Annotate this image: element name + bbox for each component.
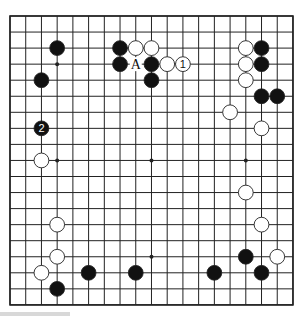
white-stone (50, 217, 65, 232)
black-stone (50, 41, 65, 56)
black-stone (34, 73, 49, 88)
black-stone (254, 57, 269, 72)
star-point (55, 158, 59, 162)
white-stone (50, 249, 65, 264)
star-point (149, 158, 153, 162)
star-point (244, 158, 248, 162)
star-point (55, 62, 59, 66)
scan-artifact (0, 312, 70, 316)
move-number: 1 (180, 58, 186, 70)
white-stone (223, 105, 238, 120)
black-stone (144, 57, 159, 72)
board-stones: 21 (34, 41, 285, 297)
white-stone (34, 153, 49, 168)
black-stone (254, 89, 269, 104)
white-stone (254, 121, 269, 136)
white-stone: 1 (176, 57, 191, 72)
star-point (149, 255, 153, 259)
black-stone (81, 265, 96, 280)
black-stone (238, 249, 253, 264)
white-stone (254, 217, 269, 232)
black-stone (254, 265, 269, 280)
white-stone (128, 41, 143, 56)
go-board: A 21 (0, 0, 304, 317)
black-stone (113, 41, 128, 56)
move-number: 2 (38, 122, 44, 134)
white-stone (238, 73, 253, 88)
point-label: A (131, 57, 142, 72)
black-stone (207, 265, 222, 280)
black-stone (113, 57, 128, 72)
white-stone (160, 57, 175, 72)
black-stone: 2 (34, 121, 49, 136)
white-stone (144, 41, 159, 56)
white-stone (34, 265, 49, 280)
white-stone (270, 249, 285, 264)
black-stone (270, 89, 285, 104)
white-stone (238, 41, 253, 56)
black-stone (254, 41, 269, 56)
black-stone (144, 73, 159, 88)
black-stone (50, 281, 65, 296)
white-stone (238, 57, 253, 72)
white-stone (238, 185, 253, 200)
black-stone (128, 265, 143, 280)
board-markers: A (130, 57, 142, 72)
